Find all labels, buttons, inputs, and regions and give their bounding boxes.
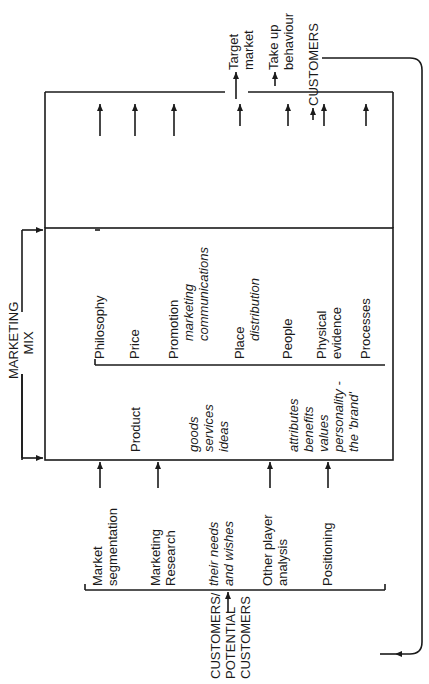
input-label: and wishes: [221, 521, 236, 586]
marketing-mix-title: MARKETING MIX: [6, 307, 36, 379]
input-label: Other player: [260, 514, 275, 586]
element-promotion: Promotion marketing communications: [166, 247, 211, 359]
product-sub: attributes: [286, 381, 301, 452]
product-sub: services: [201, 404, 216, 452]
title-line-2: MIX: [21, 307, 36, 379]
product-sub: benefits: [301, 381, 316, 452]
element-people: People: [280, 319, 295, 359]
input-needs-wishes: their needs and wishes: [206, 521, 236, 586]
product-sub: personality -: [331, 381, 346, 452]
marketing-mix-diagram: CUSTOMERS/ POTENTIAL CUSTOMERS Market se…: [0, 0, 429, 684]
input-market-segmentation: Market segmentation: [90, 508, 120, 586]
element-philosophy: Philosophy: [92, 295, 107, 359]
element-place: Place distribution: [232, 278, 262, 359]
input-label: Research: [163, 529, 178, 586]
element-label: Promotion: [166, 247, 181, 359]
element-physical-evidence: Physical evidence: [314, 307, 344, 359]
element-price: Price: [127, 329, 142, 359]
output-label: market: [241, 30, 256, 70]
source-line-3: CUSTOMERS: [238, 593, 253, 679]
input-label: Positioning: [320, 522, 335, 586]
input-other-player-analysis: Other player analysis: [260, 514, 290, 586]
element-sub: communications: [196, 247, 211, 359]
element-label: evidence: [329, 307, 344, 359]
input-label: Market: [90, 508, 105, 586]
customers-potential-label: CUSTOMERS/ POTENTIAL CUSTOMERS: [208, 593, 253, 679]
product-sub: ideas: [216, 404, 231, 452]
take-up-behaviour-label: Take up behaviour: [266, 13, 296, 70]
output-label: Target: [226, 30, 241, 70]
source-line-2: POTENTIAL: [223, 593, 238, 679]
product-sub: values: [316, 381, 331, 452]
element-label: Place: [232, 278, 247, 359]
element-label: Physical: [314, 307, 329, 359]
element-sub: marketing: [181, 247, 196, 359]
product-sub: goods: [186, 404, 201, 452]
product-sub-goods: goods services ideas: [186, 404, 231, 452]
product-label: Product: [128, 407, 143, 452]
title-line-1: MARKETING: [6, 307, 21, 379]
input-positioning: Positioning: [320, 522, 335, 586]
element-sub: distribution: [247, 278, 262, 359]
product-sub: the 'brand': [346, 381, 361, 452]
input-marketing-research: Marketing Research: [148, 529, 178, 586]
element-processes: Processes: [358, 298, 373, 359]
output-label: Take up: [266, 13, 281, 70]
source-line-1: CUSTOMERS/: [208, 593, 223, 679]
input-label: analysis: [275, 514, 290, 586]
product-sub-brand: attributes benefits values personality -…: [286, 381, 361, 452]
customers-label: CUSTOMERS: [306, 23, 321, 106]
input-label: Marketing: [148, 529, 163, 586]
output-label: behaviour: [281, 13, 296, 70]
input-label: segmentation: [105, 508, 120, 586]
input-label: their needs: [206, 521, 221, 586]
target-market-label: Target market: [226, 30, 256, 70]
